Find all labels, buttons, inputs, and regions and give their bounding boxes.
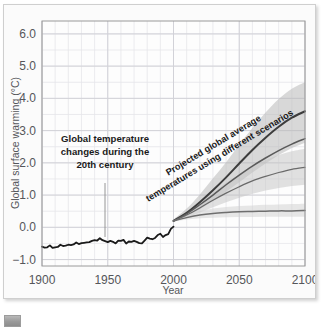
- y-tick-label: 4.0: [19, 91, 36, 105]
- y-tick-label: 6.0: [19, 27, 36, 41]
- historical-annotation-line-2: changes during the: [61, 146, 150, 157]
- y-tick-label: 0.0: [19, 220, 36, 234]
- climate-projection-figure: 6.05.04.03.02.01.00.0−1.0 19001950200020…: [0, 0, 324, 333]
- y-tick-label: 5.0: [19, 59, 36, 73]
- historical-annotation-line-3: 20th century: [76, 159, 134, 170]
- x-tick-label: 1900: [29, 273, 56, 287]
- y-tick-label: −1.0: [12, 253, 36, 267]
- x-tick-label: 2050: [226, 273, 253, 287]
- historical-annotation-line-1: Global temperature: [61, 133, 149, 144]
- x-axis-title: Year: [162, 284, 184, 296]
- global-warming-chart: 6.05.04.03.02.01.00.0−1.0 19001950200020…: [4, 5, 315, 298]
- image-thumbnail-icon[interactable]: [4, 315, 21, 327]
- y-axis-title: Global surface warming (°C): [9, 77, 21, 209]
- chart-card: 6.05.04.03.02.01.00.0−1.0 19001950200020…: [3, 4, 316, 299]
- y-tick-label: 3.0: [19, 124, 36, 138]
- x-tick-label: 1950: [94, 273, 121, 287]
- y-tick-label: 1.0: [19, 188, 36, 202]
- y-tick-label: 2.0: [19, 156, 36, 170]
- x-tick-label: 2100: [292, 273, 315, 287]
